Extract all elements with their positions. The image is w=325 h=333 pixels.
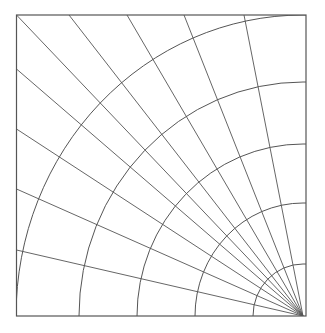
radial-line [17, 15, 304, 316]
radial-line [127, 15, 303, 316]
radial-line [244, 15, 303, 316]
radial-line [17, 69, 304, 316]
radial-lines [17, 15, 304, 316]
polar-grid-diagram [0, 0, 325, 333]
concentric-arc [195, 203, 313, 316]
radial-line [69, 15, 303, 316]
radial-line [17, 250, 304, 316]
